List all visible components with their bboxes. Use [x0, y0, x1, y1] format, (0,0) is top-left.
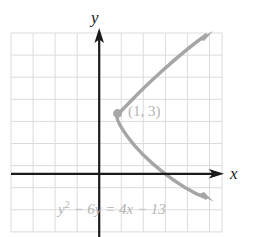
vertex-point-marker — [113, 109, 122, 118]
x-axis-label: x — [230, 165, 238, 182]
vertex-point-label: (1, 3) — [128, 104, 161, 119]
equation-remainder: − 6y = 4x − 13 — [70, 201, 166, 217]
y-axis-label: y — [91, 9, 99, 26]
equation-variable: y — [58, 201, 65, 217]
x-axis — [11, 169, 224, 179]
graph-figure: y x (1, 3) y2 − 6y = 4x − 13 — [0, 0, 255, 237]
equation-annotation: y2 − 6y = 4x − 13 — [58, 200, 166, 217]
